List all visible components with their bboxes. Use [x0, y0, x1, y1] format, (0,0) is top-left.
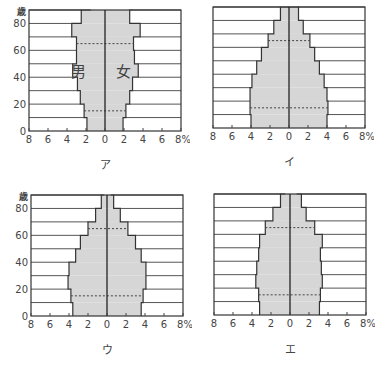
x-tick-label: 8 [26, 134, 32, 145]
svg-text:60: 60 [15, 230, 28, 241]
svg-text:80: 80 [13, 18, 26, 29]
x-tick-label: 4 [248, 131, 254, 142]
x-tick-label: 6 [229, 131, 235, 142]
svg-text:エ: エ [285, 343, 296, 356]
x-tick-label: 4 [140, 134, 146, 145]
x-tick-label: 0 [102, 134, 108, 145]
svg-text:女: 女 [116, 63, 131, 81]
pyramid-panel-1: 864202468%020406080歳男女ア [0, 4, 190, 183]
svg-text:80: 80 [15, 203, 28, 214]
x-tick-label: 4 [324, 131, 330, 142]
x-tick-label: 4 [249, 318, 255, 329]
svg-text:0: 0 [22, 311, 28, 322]
x-tick-label: 6 [45, 134, 51, 145]
x-tick-label: 6 [344, 318, 350, 329]
pyramid-panel-2: 864202468%イ [184, 1, 374, 180]
x-tick-label: 6 [47, 319, 53, 330]
x-tick-label: 6 [230, 318, 236, 329]
svg-text:ア: ア [100, 159, 111, 172]
x-tick-label: 4 [66, 319, 72, 330]
x-tick-label: 6 [159, 134, 165, 145]
x-tick-label: 6 [161, 319, 167, 330]
svg-text:男: 男 [71, 63, 86, 81]
x-tick-label: 8% [359, 131, 374, 142]
x-tick-label: 2 [268, 318, 274, 329]
svg-text:歳: 歳 [18, 191, 28, 202]
x-tick-label: 0 [287, 318, 293, 329]
svg-text:20: 20 [15, 284, 28, 295]
x-tick-label: 8 [28, 319, 34, 330]
x-tick-label: 4 [64, 134, 70, 145]
svg-text:ウ: ウ [102, 344, 113, 357]
x-tick-label: 0 [104, 319, 110, 330]
pyramid-panel-4: 864202468%エ [185, 188, 375, 365]
x-tick-label: 2 [85, 319, 91, 330]
svg-text:0: 0 [20, 126, 26, 137]
svg-text:歳: 歳 [16, 6, 26, 17]
svg-text:イ: イ [284, 156, 295, 169]
x-tick-label: 8 [210, 131, 216, 142]
x-tick-label: 6 [343, 131, 349, 142]
svg-text:60: 60 [13, 45, 26, 56]
x-tick-label: 8% [360, 318, 375, 329]
x-tick-label: 4 [325, 318, 331, 329]
x-tick-label: 0 [286, 131, 292, 142]
x-tick-label: 8 [211, 318, 217, 329]
x-tick-label: 4 [142, 319, 148, 330]
x-tick-label: 2 [83, 134, 89, 145]
x-tick-label: 2 [123, 319, 129, 330]
x-tick-label: 2 [305, 131, 311, 142]
svg-text:20: 20 [13, 99, 26, 110]
x-tick-label: 2 [267, 131, 273, 142]
pyramid-panel-3: 864202468%020406080歳ウ [2, 189, 192, 365]
svg-text:40: 40 [13, 72, 26, 83]
x-tick-label: 2 [306, 318, 312, 329]
svg-text:40: 40 [15, 257, 28, 268]
x-tick-label: 2 [121, 134, 127, 145]
